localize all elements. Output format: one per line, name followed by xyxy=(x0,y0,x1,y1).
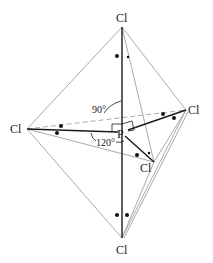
bonds xyxy=(27,27,186,238)
cl-axial-top-label: Cl xyxy=(116,11,128,25)
angle-90-label: 90° xyxy=(92,104,106,115)
bond-left xyxy=(27,129,118,132)
cl-right-label: Cl xyxy=(188,103,200,117)
cl-front-label: Cl xyxy=(140,161,152,175)
polyhedron-edges xyxy=(27,27,188,238)
p-central-label: P xyxy=(117,127,124,141)
angle-120-label: 120° xyxy=(96,137,115,148)
cl-axial-bottom-label: Cl xyxy=(116,243,128,257)
arc-90 xyxy=(104,101,121,113)
cl-left-label: Cl xyxy=(10,122,22,136)
angle-labels: 90° 120° xyxy=(92,104,115,148)
pcl5-diagram: Cl Cl Cl Cl Cl P 90° 120° xyxy=(0,0,213,263)
electron-dots xyxy=(55,54,176,217)
